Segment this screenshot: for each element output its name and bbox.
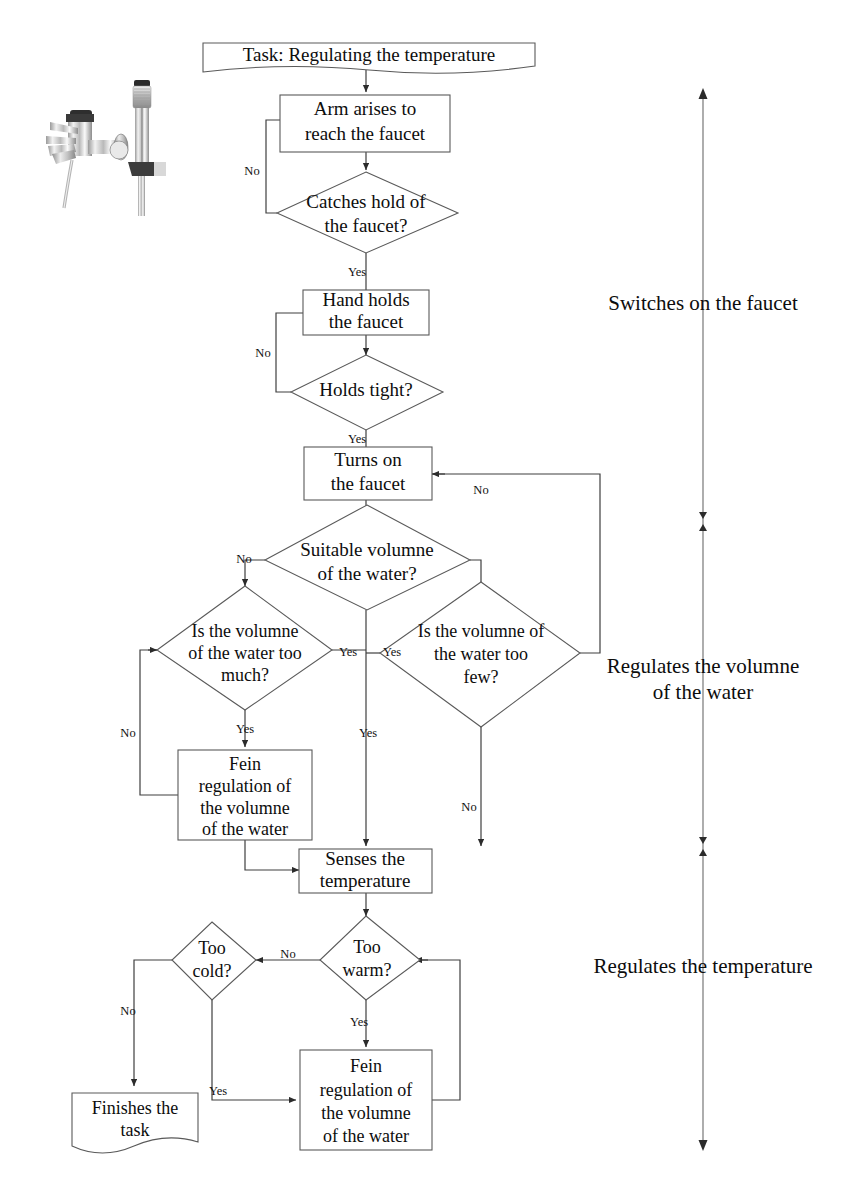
- node-volume-too-few-line3: few?: [464, 667, 499, 687]
- node-finishes-task-line2: task: [121, 1120, 150, 1140]
- edge-label-catches-yes: Yes: [348, 265, 366, 279]
- edge-label-toofew-yes: Yes: [383, 645, 401, 659]
- edge-catches-no-loop: [266, 120, 280, 213]
- node-too-cold-line2: cold?: [193, 961, 232, 981]
- node-too-warm[interactable]: Too warm?: [320, 916, 420, 1000]
- edge-label-holds-yes: Yes: [348, 432, 366, 446]
- edge-suitable-to-toofew: [470, 560, 481, 582]
- node-fein-volume[interactable]: Fein regulation of the volumne of the wa…: [178, 750, 312, 840]
- node-catches-hold-line1: Catches hold of: [306, 191, 426, 212]
- node-arm-arises[interactable]: Arm arises to reach the faucet: [280, 95, 450, 152]
- node-volume-too-much-line1: Is the volumne: [192, 621, 299, 641]
- node-senses-temperature-line1: Senses the: [325, 848, 405, 869]
- node-task-label: Task: Regulating the temperature: [243, 44, 495, 65]
- node-hand-holds-line1: Hand holds: [322, 289, 409, 310]
- node-volume-too-much-line3: much?: [221, 665, 269, 685]
- phase-label-regulates-volume-line2: of the water: [653, 680, 753, 704]
- edge-label-toocold-no: No: [120, 1004, 135, 1018]
- node-fein-temperature-line3: the volumne: [321, 1103, 410, 1123]
- node-finishes-task-line1: Finishes the: [92, 1098, 179, 1118]
- node-catches-hold[interactable]: Catches hold of the faucet?: [277, 172, 458, 253]
- phase-label-regulates-volume-line1: Regulates the volumne: [607, 654, 799, 678]
- edge-label-toomuch-no: No: [120, 726, 135, 740]
- node-senses-temperature-line2: temperature: [320, 870, 411, 891]
- node-holds-tight[interactable]: Holds tight?: [291, 355, 443, 430]
- node-fein-volume-line3: the volumne: [200, 798, 289, 818]
- node-volume-too-much-line2: of the water too: [188, 643, 301, 663]
- node-finishes-task[interactable]: Finishes the task: [72, 1093, 198, 1153]
- edge-label-toomuch-yes: Yes: [236, 722, 254, 736]
- edge-fein-to-senses: [245, 840, 299, 870]
- node-hand-holds-line2: the faucet: [329, 311, 404, 332]
- node-too-cold[interactable]: Too cold?: [172, 922, 256, 1000]
- node-arm-arises-line1: Arm arises to: [314, 98, 416, 119]
- node-fein-temperature-line2: regulation of: [320, 1080, 412, 1100]
- node-too-cold-line1: Too: [198, 938, 226, 958]
- node-senses-temperature[interactable]: Senses the temperature: [299, 848, 432, 893]
- node-fein-volume-line1: Fein: [229, 754, 261, 774]
- node-holds-tight-label: Holds tight?: [319, 379, 412, 400]
- node-turns-on[interactable]: Turns on the faucet: [304, 447, 432, 500]
- edge-label-toowarm-no: No: [280, 947, 295, 961]
- node-fein-temperature-line1: Fein: [350, 1056, 382, 1076]
- edge-label-catches-no: No: [244, 164, 259, 178]
- node-arm-arises-line2: reach the faucet: [305, 123, 426, 144]
- node-suitable-volume-line1: Suitable volumne: [300, 539, 434, 560]
- diagram-canvas: Task: Regulating the temperature Arm ari…: [0, 0, 859, 1191]
- node-volume-too-few[interactable]: Is the volumne of the water too few?: [380, 582, 580, 727]
- edge-label-toowarm-yes: Yes: [350, 1015, 368, 1029]
- node-catches-hold-line2: the faucet?: [325, 215, 408, 236]
- flowchart-svg: Task: Regulating the temperature Arm ari…: [0, 0, 859, 1191]
- node-turns-on-line2: the faucet: [331, 473, 406, 494]
- phase-axis-top-arrow: [699, 88, 708, 99]
- node-suitable-volume[interactable]: Suitable volumne of the water?: [265, 505, 470, 610]
- phase-label-regulates-temperature: Regulates the temperature: [593, 954, 812, 978]
- edge-label-toofew-no: No: [461, 800, 476, 814]
- edge-label-toocold-yes: Yes: [209, 1084, 227, 1098]
- edge-label-holds-no: No: [255, 346, 270, 360]
- edge-label-suitable-no: No: [236, 552, 251, 566]
- node-volume-too-few-line2: the water too: [434, 644, 528, 664]
- edge-holds-no-loop: [276, 313, 303, 392]
- node-turns-on-line1: Turns on: [334, 449, 402, 470]
- edge-toomuch-no-loop: [140, 650, 178, 795]
- edge-toocold-no: [134, 960, 172, 1086]
- node-fein-temperature-line4: of the water: [323, 1126, 409, 1146]
- node-fein-volume-line2: regulation of: [199, 776, 291, 796]
- phase-axis: [699, 88, 708, 1151]
- node-task[interactable]: Task: Regulating the temperature: [203, 43, 535, 73]
- edge-label-suitable-yes: Yes: [339, 645, 357, 659]
- phase-label-switches-on: Switches on the faucet: [608, 291, 798, 315]
- node-volume-too-much[interactable]: Is the volumne of the water too much?: [157, 586, 332, 710]
- node-suitable-volume-line2: of the water?: [317, 563, 416, 584]
- node-too-warm-line1: Too: [353, 937, 381, 957]
- edge-label-turnson-no: No: [473, 483, 488, 497]
- node-fein-temperature[interactable]: Fein regulation of the volumne of the wa…: [300, 1050, 432, 1150]
- node-volume-too-few-line1: Is the volumne of: [418, 621, 544, 641]
- node-hand-holds[interactable]: Hand holds the faucet: [303, 289, 429, 335]
- node-too-warm-line2: warm?: [343, 960, 392, 980]
- node-fein-volume-line4: of the water: [202, 819, 288, 839]
- edge-label-center-yes: Yes: [359, 726, 377, 740]
- phase-axis-bottom-arrow: [699, 1140, 708, 1151]
